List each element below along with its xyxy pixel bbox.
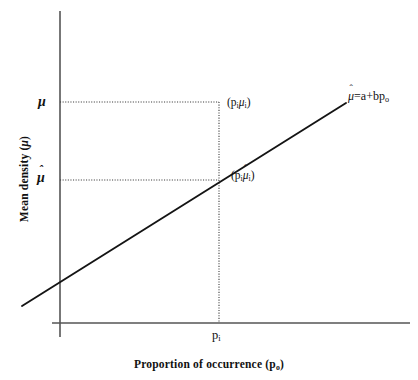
x-axis-title-text: Proportion of occurrence (p: [134, 358, 276, 370]
y-tick-label-mu: μ: [38, 94, 46, 110]
y-tick-mu-glyph: μ: [38, 94, 46, 109]
hat-accent-icon: ˆ: [39, 165, 43, 176]
hat-accent-icon: ˆ: [349, 84, 352, 94]
y-axis-title-mu: μ: [18, 140, 30, 147]
equation-equals-sign: =: [354, 89, 361, 103]
upper-open-paren: (p: [227, 96, 237, 108]
regression-equation-label: ˆμ=a+bpo: [348, 89, 389, 104]
hat-accent-icon: ˆ: [244, 165, 247, 174]
equation-mu-hat-glyph: ˆμ: [348, 89, 354, 104]
x-tick-label-pi: pi: [212, 328, 221, 343]
y-tick-label-mu-hat: ˆμ: [37, 170, 45, 186]
lower-mu-hat-glyph: ˆμ: [243, 169, 249, 181]
x-tick-pi-subscript: i: [218, 333, 220, 343]
observed-point-label: (piμi): [227, 96, 251, 110]
x-axis-title: Proportion of occurrence (po): [0, 358, 418, 372]
plot-canvas: [0, 0, 418, 380]
y-axis-title-text: Mean density (: [18, 147, 30, 223]
regression-line: [22, 103, 346, 306]
regression-schematic-figure: Mean density (μ) Proportion of occurrenc…: [0, 0, 418, 380]
equation-plus-sign: +: [366, 89, 373, 103]
lower-open-paren: (p: [231, 169, 241, 181]
lower-close-paren: ): [251, 169, 255, 181]
y-axis-title-close: ): [18, 136, 30, 140]
upper-close-paren: ): [247, 96, 251, 108]
y-tick-mu-hat-glyph: ˆμ: [37, 170, 45, 186]
x-axis-title-close: ): [280, 358, 284, 370]
equation-p-subscript: o: [385, 95, 389, 104]
fitted-point-label: (piˆμi): [231, 169, 255, 183]
y-axis-title: Mean density (μ): [18, 99, 30, 259]
